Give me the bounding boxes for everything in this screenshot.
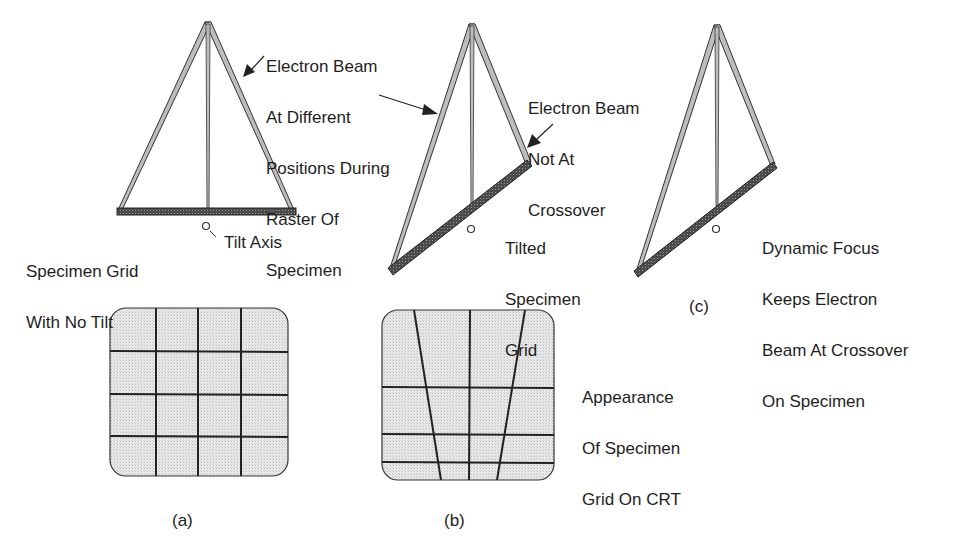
label-line: At Different <box>266 109 390 126</box>
raster-pointer-arrow-head <box>422 104 438 115</box>
dynamic-focus-label: Dynamic Focus Keeps Electron Beam At Cro… <box>762 206 908 427</box>
label-line: Grid <box>505 342 581 359</box>
label-line: Specimen <box>505 291 581 308</box>
tilt-axis-label: Tilt Axis <box>224 234 282 251</box>
panel-c-beam-cone <box>634 25 777 277</box>
grid-line-h <box>110 394 288 395</box>
label-line: Electron Beam <box>266 58 390 75</box>
tilted-specimen-grid-label: Tilted Specimen Grid <box>505 206 581 376</box>
label-line: Grid On CRT <box>582 491 681 508</box>
grid-line-h <box>382 434 554 435</box>
label-line: Appearance <box>582 389 681 406</box>
label-line: Of Specimen <box>582 440 681 457</box>
beam-left <box>390 24 475 268</box>
label-line: On Specimen <box>762 393 908 410</box>
beam-left <box>118 22 211 210</box>
grid-line-h <box>382 462 554 463</box>
beam-pointer-arrow-head <box>243 64 255 77</box>
beam-positions-label: Electron Beam At Different Positions Dur… <box>266 24 390 296</box>
caption-b: (b) <box>444 512 465 529</box>
label-line: Tilted <box>505 240 581 257</box>
label-line: Raster Of <box>266 211 390 228</box>
label-line: Keeps Electron <box>762 291 908 308</box>
tilt-axis-icon <box>713 226 720 233</box>
label-line: Positions During <box>266 160 390 177</box>
beam-center <box>470 26 474 204</box>
beam-left <box>636 25 720 272</box>
label-line: Beam At Crossover <box>762 342 908 359</box>
grid-line-h <box>382 387 554 388</box>
label-line: Specimen Grid <box>26 263 138 280</box>
beam-center <box>715 27 719 206</box>
beam-right <box>469 24 531 164</box>
beam-center <box>206 24 210 210</box>
caption-a: (a) <box>172 512 193 529</box>
tilt-axis-icon <box>203 223 210 230</box>
grid-line-h <box>110 351 288 352</box>
specimen-grid-no-tilt-label: Specimen Grid With No Tilt <box>26 229 138 348</box>
label-line: Electron Beam <box>528 100 640 117</box>
beam-right <box>714 25 775 166</box>
caption-c: (c) <box>689 298 709 315</box>
label-line: Specimen <box>266 262 390 279</box>
grid-line-h <box>110 436 288 437</box>
tilt-axis-leader <box>210 231 216 237</box>
beam-pointer-arrow-shaft <box>251 56 264 70</box>
label-line: With No Tilt <box>26 314 138 331</box>
grid-line-v <box>469 310 470 480</box>
label-line: Not At <box>528 151 640 168</box>
tilt-axis-icon <box>468 226 475 233</box>
label-line: Dynamic Focus <box>762 240 908 257</box>
crt-appearance-label: Appearance Of Specimen Grid On CRT <box>582 355 681 525</box>
